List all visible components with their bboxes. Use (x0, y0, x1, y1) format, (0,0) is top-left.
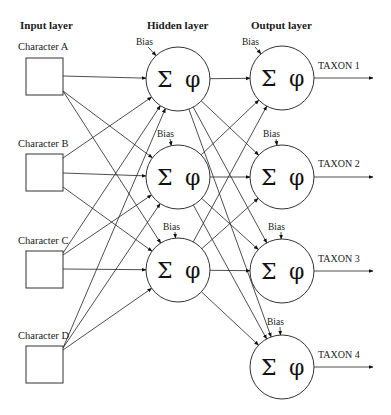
input-label: Character C (18, 235, 68, 246)
edge-input-3-to-hidden-2 (63, 195, 152, 255)
edge-input-4-to-hidden-3 (63, 288, 152, 350)
edge-input-2-to-hidden-1 (63, 97, 152, 158)
input-node-a: Character A (18, 41, 69, 95)
taxon-label: TAXON 1 (318, 60, 360, 71)
edge-input-4-to-hidden-1 (63, 108, 165, 348)
output-node-3: Bias Σ φ TAXON 3 (250, 222, 360, 303)
input-box (26, 251, 63, 288)
sigma-icon: Σ (261, 66, 277, 91)
output-node-2: Bias Σ φ TAXON 2 (250, 129, 360, 209)
connections (63, 47, 373, 367)
phi-icon: φ (289, 165, 304, 190)
sigma-icon: Σ (157, 67, 173, 92)
input-box (26, 58, 63, 95)
taxon-label: TAXON 3 (318, 253, 360, 264)
sigma-icon: Σ (157, 165, 173, 190)
input-node-d: Character D (18, 330, 69, 383)
bias-arrow-2 (170, 139, 171, 146)
input-node-c: Character C (18, 235, 68, 288)
sigma-icon: Σ (157, 258, 173, 283)
sigma-icon: Σ (261, 259, 277, 284)
edge-input-2-to-hidden-3 (63, 187, 152, 251)
edge-input-1-to-hidden-3 (63, 91, 161, 243)
input-label: Character B (18, 138, 68, 149)
hidden-node-3: Bias Σ φ (146, 222, 210, 302)
edge-hidden-3-to-output-4 (201, 292, 258, 345)
phi-icon: φ (289, 66, 304, 91)
sigma-icon: Σ (261, 165, 277, 190)
neural-network-diagram: Input layer Hidden layer Output layer Ch… (0, 0, 391, 415)
input-box (26, 346, 63, 383)
phi-icon: φ (185, 165, 200, 190)
phi-icon: φ (185, 258, 200, 283)
edge-input-2-to-hidden-2 (63, 173, 146, 176)
bias-arrow-5 (276, 139, 277, 145)
edge-input-1-to-hidden-1 (63, 76, 146, 78)
bias-label: Bias (268, 222, 285, 232)
bias-label: Bias (242, 37, 259, 47)
bias-label: Bias (136, 37, 153, 47)
taxon-label: TAXON 4 (318, 349, 360, 360)
hidden-layer-title: Hidden layer (147, 19, 209, 31)
bias-label: Bias (263, 129, 280, 139)
bias-label: Bias (157, 129, 174, 139)
sigma-icon: Σ (261, 355, 277, 380)
output-node-1: Bias Σ φ TAXON 1 (242, 37, 360, 110)
edge-input-1-to-hidden-2 (63, 91, 152, 158)
phi-icon: φ (185, 67, 200, 92)
bias-arrow-1 (148, 47, 156, 56)
bias-label: Bias (163, 222, 180, 232)
output-layer-title: Output layer (251, 19, 312, 31)
input-node-b: Character B (18, 138, 68, 191)
input-label: Character A (18, 41, 69, 52)
bias-label: Bias (267, 317, 284, 327)
taxon-label: TAXON 2 (318, 158, 360, 169)
output-node-4: Bias Σ φ TAXON 4 (250, 317, 360, 399)
bias-arrow-4 (255, 47, 261, 54)
edge-input-4-to-hidden-2 (63, 204, 160, 348)
input-box (26, 154, 63, 191)
input-label: Character D (18, 330, 69, 341)
input-layer-title: Input layer (20, 19, 73, 31)
phi-icon: φ (289, 355, 304, 380)
edge-input-3-to-hidden-3 (63, 269, 146, 270)
phi-icon: φ (289, 259, 304, 284)
